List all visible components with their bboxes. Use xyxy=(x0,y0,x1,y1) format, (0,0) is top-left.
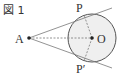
label-p: P xyxy=(76,1,83,15)
point-a xyxy=(27,36,31,40)
label-p-prime: P′ xyxy=(76,62,86,73)
label-o: O xyxy=(97,32,106,46)
point-o xyxy=(90,36,94,40)
label-a: A xyxy=(15,32,24,46)
tangent-diagram: A O P P′ xyxy=(0,0,125,73)
